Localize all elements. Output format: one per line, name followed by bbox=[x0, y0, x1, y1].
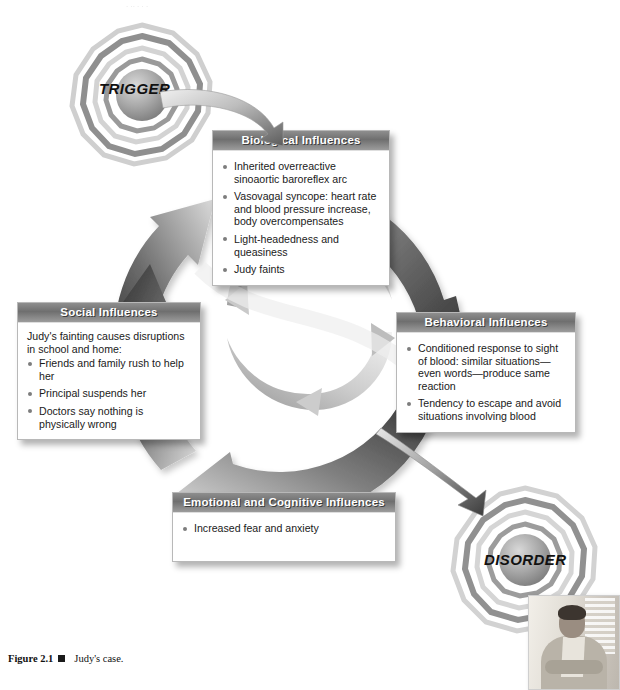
figure-caption-text: Judy's case. bbox=[74, 653, 123, 664]
photo-arms bbox=[545, 660, 603, 674]
trigger-to-biological-arrow bbox=[160, 89, 283, 146]
filled-square-icon bbox=[58, 655, 65, 662]
photo-hair bbox=[558, 605, 586, 620]
behavioral-to-disorder-arrow bbox=[376, 428, 486, 516]
figure-caption: Figure 2.1Judy's case. bbox=[8, 652, 123, 664]
figure-number: Figure 2.1 bbox=[8, 653, 53, 664]
person-photo-icon bbox=[528, 595, 620, 690]
